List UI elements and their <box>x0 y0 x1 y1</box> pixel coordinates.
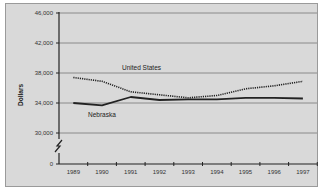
x-tick-label: 1996 <box>268 169 282 175</box>
x-tick-label: 1992 <box>153 169 167 175</box>
y-tick-label: 0 <box>50 161 54 167</box>
label-nebraska: Nebraska <box>88 111 116 118</box>
x-tick-label: 1990 <box>95 169 109 175</box>
x-tick-label: 1994 <box>210 169 224 175</box>
x-tick-label: 1991 <box>124 169 138 175</box>
y-tick-label: 30,000 <box>35 130 54 136</box>
y-tick-label: 34,000 <box>35 100 54 106</box>
x-tick-label: 1993 <box>181 169 195 175</box>
x-tick-label: 1995 <box>239 169 253 175</box>
y-tick-label: 46,000 <box>35 10 54 16</box>
x-tick-label: 1989 <box>67 169 81 175</box>
x-tick-label: 1997 <box>296 169 310 175</box>
y-axis-label: Dollars <box>17 84 24 106</box>
line-chart: 46,00042,00038,00034,00030,0000 19891990… <box>0 0 335 194</box>
series-lines <box>73 78 303 106</box>
series-united-states <box>73 78 303 98</box>
label-united-states: United States <box>122 64 162 71</box>
y-tick-label: 42,000 <box>35 40 54 46</box>
y-tick-label: 38,000 <box>35 70 54 76</box>
